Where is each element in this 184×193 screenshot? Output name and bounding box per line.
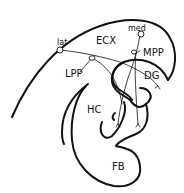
lpp-node [89, 56, 95, 60]
terminal-hc-right [136, 124, 140, 127]
hippocampal-formation-diagram: lat ECX med MPP LPP DG HC FB [0, 0, 184, 193]
mpp-node [132, 50, 137, 54]
label-lpp: LPP [65, 68, 83, 79]
mpp-branch [135, 52, 138, 124]
ecx-outer-arc [12, 20, 175, 117]
hc-hook [113, 113, 115, 120]
label-lat: lat [57, 38, 67, 47]
label-hc: HC [87, 104, 102, 115]
dg-outline [112, 60, 168, 107]
label-fb: FB [112, 161, 125, 172]
lat-node [57, 47, 63, 53]
label-ecx: ECX [96, 35, 116, 46]
fimbria-fold [62, 84, 88, 144]
label-mpp: MPP [143, 47, 164, 58]
terminal-dg [155, 86, 160, 89]
label-dg: DG [144, 70, 159, 81]
label-med: med [128, 24, 146, 33]
